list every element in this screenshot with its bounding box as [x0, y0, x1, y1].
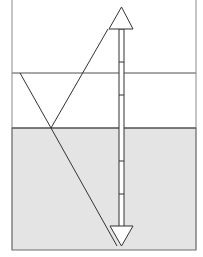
arrow-shaft: [119, 29, 124, 229]
reflected-ray: [51, 29, 108, 128]
refraction-diagram: [0, 0, 203, 257]
lower-medium: [12, 128, 196, 250]
arrowhead-up-icon: [109, 7, 133, 29]
incident-ray: [20, 73, 51, 128]
